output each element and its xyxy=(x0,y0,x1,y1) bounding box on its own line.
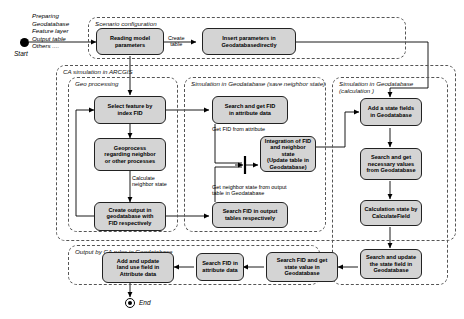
node-search-fid-output-tables-label: Search FID in outputtables respectively xyxy=(223,208,278,221)
node-search-get-fid-attribute[interactable]: Search and get FIDin attribute data xyxy=(212,96,288,124)
edge-label-get-fid-from-attribute: Get FID from attribute xyxy=(212,126,265,132)
node-add-state-fields[interactable]: Add a state fieldsin Geodatabase xyxy=(360,98,422,126)
group-title-ca: CA simulation in ARCGIS xyxy=(63,68,133,76)
end-node xyxy=(125,298,135,308)
node-search-update-state-field-label: Search and updatethe state field inGeoda… xyxy=(366,254,416,274)
node-calculation-state-label: Calculation state byCalculateField xyxy=(365,206,418,219)
node-geoprocess-label: Geoprocessregarding neighboror other pro… xyxy=(104,145,155,165)
node-geoprocess[interactable]: Geoprocessregarding neighboror other pro… xyxy=(94,138,166,171)
node-insert-parameters-label: Insert parameters inGeodatabasedirectly xyxy=(221,35,276,48)
node-select-feature-by-index-fid[interactable]: Select feature byindex FID xyxy=(94,96,166,124)
node-search-fid-get-state-value-label: Search FID and getstate value inGeodatab… xyxy=(277,257,328,277)
edge-label-calculate-neighbor-state: Calculateneighbor state xyxy=(132,175,167,188)
node-reading-model-parameters[interactable]: Reading modelparameters xyxy=(96,28,164,55)
node-search-fid-attribute-data[interactable]: Search FID inattribute data xyxy=(196,253,244,281)
node-insert-parameters[interactable]: Insert parameters inGeodatabasedirectly xyxy=(202,28,296,55)
flowchart-canvas: Start PreparingGeodatabaseFeature layerO… xyxy=(0,0,464,319)
edge-label-create-table: Createtable xyxy=(168,35,185,48)
group-title-scenario: Scenario configuration xyxy=(95,20,157,28)
node-create-output-label: Create output ingeodatabase withFID resp… xyxy=(107,207,154,227)
node-search-get-fid-attribute-label: Search and get FIDin attribute data xyxy=(225,103,276,116)
node-calculation-state[interactable]: Calculation state byCalculateField xyxy=(360,200,422,226)
start-label: Start xyxy=(14,50,28,57)
preparing-note: PreparingGeodatabaseFeature layerOutput … xyxy=(32,12,69,50)
node-create-output[interactable]: Create output ingeodatabase withFID resp… xyxy=(94,202,166,231)
group-title-geo: Geo processing xyxy=(75,80,118,88)
node-search-fid-output-tables[interactable]: Search FID in outputtables respectively xyxy=(212,202,288,228)
node-add-state-fields-label: Add a state fieldsin Geodatabase xyxy=(368,105,414,118)
node-select-feature-label: Select feature byindex FID xyxy=(108,103,153,116)
edge-label-get-neighbor-state: Get neighbor state from outputtable in G… xyxy=(212,184,287,197)
group-title-calc: Simulation in Geodatabase(calculation ) xyxy=(339,80,413,94)
node-add-update-land-use[interactable]: Add and updateland use field inAttribute… xyxy=(102,252,174,283)
node-integration-fid-neighbor-state[interactable]: Integration of FIDand neighbor state(Upd… xyxy=(260,136,316,172)
node-search-update-state-field[interactable]: Search and updatethe state field inGeoda… xyxy=(360,249,422,279)
start-node xyxy=(20,38,29,47)
node-search-necessary-values-label: Search and getnecessary valuesfrom Geoda… xyxy=(366,154,415,174)
group-title-savestate: Simulation in Geodatabase (save neighbor… xyxy=(191,80,325,88)
node-add-update-land-use-label: Add and updateland use field inAttribute… xyxy=(117,258,159,278)
node-search-necessary-values[interactable]: Search and getnecessary valuesfrom Geoda… xyxy=(360,148,422,180)
node-search-fid-attribute-data-label: Search FID inattribute data xyxy=(202,260,238,273)
node-integration-label: Integration of FIDand neighbor state(Upd… xyxy=(263,138,313,171)
end-label: End xyxy=(139,299,151,306)
node-search-fid-get-state-value[interactable]: Search FID and getstate value inGeodatab… xyxy=(266,252,338,282)
node-reading-model-parameters-label: Reading modelparameters xyxy=(110,35,150,48)
